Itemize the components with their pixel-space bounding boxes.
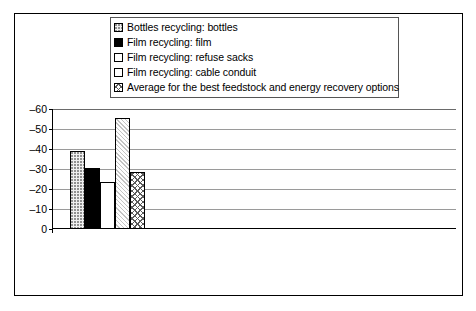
y-axis-tick — [49, 149, 53, 150]
y-axis-tick-label: –50 — [29, 123, 47, 135]
y-axis-tick — [49, 169, 53, 170]
legend-item: Average for the best feedstock and energ… — [114, 80, 395, 95]
legend-swatch-film-recycling-cable-conduit — [114, 68, 123, 77]
legend-label: Film recycling: film — [127, 35, 211, 50]
bar — [85, 168, 100, 228]
legend-label: Film recycling: cable conduit — [127, 65, 256, 80]
y-axis-tick-label: –40 — [29, 143, 47, 155]
bar — [70, 151, 85, 228]
legend-label: Bottles recycling: bottles — [127, 20, 238, 35]
legend-swatch-film-recycling-refuse-sacks — [114, 53, 123, 62]
y-axis-tick — [49, 109, 53, 110]
legend-item: Bottles recycling: bottles — [114, 20, 395, 35]
y-axis-tick-label: –60 — [29, 103, 47, 115]
plot-wrapper: –60–50–40–30–20–100 — [14, 109, 463, 231]
legend-item: Film recycling: refuse sacks — [114, 50, 395, 65]
bar — [115, 118, 130, 228]
y-axis-tick — [49, 189, 53, 190]
bar — [130, 172, 145, 228]
bar-group — [70, 109, 145, 228]
y-axis-tick — [49, 129, 53, 130]
y-axis-tick-label: 0 — [41, 223, 47, 235]
legend-label: Average for the best feedstock and energ… — [127, 80, 399, 95]
legend-swatch-bottles-recycling-bottles — [114, 23, 123, 32]
chart-figure: Bottles recycling: bottles Film recyclin… — [0, 0, 476, 311]
x-axis-tick — [52, 229, 53, 233]
y-axis-tick-label: –30 — [29, 163, 47, 175]
legend-swatch-film-recycling-film — [114, 38, 123, 47]
y-axis-tick — [49, 209, 53, 210]
legend-label: Film recycling: refuse sacks — [127, 50, 253, 65]
plot-area: –60–50–40–30–20–100 — [52, 109, 456, 229]
legend-item: Film recycling: cable conduit — [114, 65, 395, 80]
legend-swatch-average-best-feedstock — [114, 83, 123, 92]
legend-item: Film recycling: film — [114, 35, 395, 50]
bar — [100, 182, 115, 228]
y-axis-tick-label: –10 — [29, 203, 47, 215]
y-axis-tick-label: –20 — [29, 183, 47, 195]
chart-legend: Bottles recycling: bottles Film recyclin… — [110, 17, 399, 98]
